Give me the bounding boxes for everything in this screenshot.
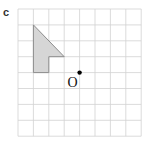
center-point (77, 70, 81, 74)
part-label: c (3, 6, 9, 18)
rotation-diagram: c O (0, 0, 148, 148)
center-point-label: O (68, 75, 78, 90)
